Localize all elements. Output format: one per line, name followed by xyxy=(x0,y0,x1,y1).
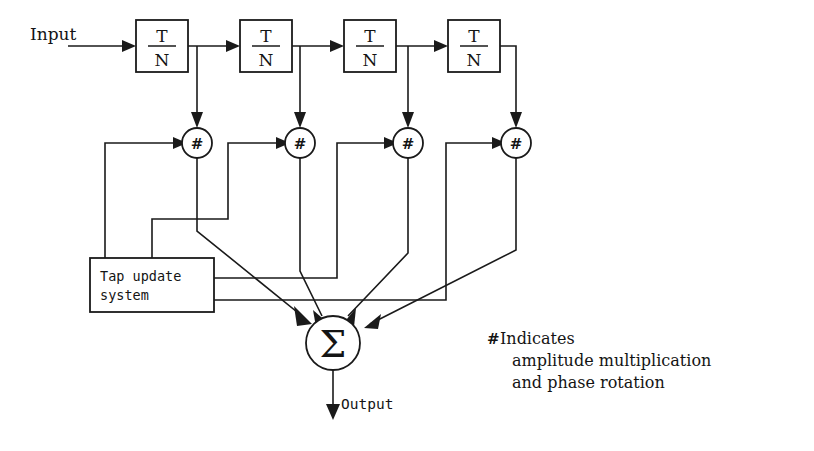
legend-line2: amplitude multiplication xyxy=(512,351,711,370)
tap-update-system-line1: Tap update xyxy=(100,268,181,284)
sum-wire-2-line xyxy=(300,158,322,316)
sum-wire-4 xyxy=(364,158,516,329)
sum-wire-3-line xyxy=(348,158,408,316)
control-wire-2-line xyxy=(152,143,276,258)
sum-wire-3 xyxy=(342,158,408,327)
multiplier-4-symbol: # xyxy=(510,135,523,153)
tap-update-system-box: Tap update system xyxy=(90,258,214,312)
delay-box-3: T N xyxy=(344,20,396,72)
chain-arrowhead-1 xyxy=(226,40,240,52)
multiplier-2-symbol: # xyxy=(294,135,307,153)
control-wire-1-line xyxy=(105,143,173,258)
delay-box-3-numerator: T xyxy=(364,26,376,46)
input-wire-group xyxy=(68,40,136,52)
control-wire-4-line xyxy=(214,143,492,300)
diagram-canvas: T N T N T N T N xyxy=(0,0,814,451)
multiplier-1: # xyxy=(182,128,212,158)
delay-box-1: T N xyxy=(136,20,188,72)
input-label: Input xyxy=(30,24,76,44)
output-label: Output xyxy=(341,396,393,412)
chain-arrowhead-2 xyxy=(330,40,344,52)
tap-drop-1 xyxy=(191,46,203,128)
sum-wire-4-line xyxy=(370,158,516,324)
delay-box-1-numerator: T xyxy=(156,26,168,46)
control-wire-1 xyxy=(105,137,187,258)
tap-update-system-line2: system xyxy=(100,287,149,303)
legend-line3: and phase rotation xyxy=(512,373,665,392)
tap-drop-2-arrowhead xyxy=(294,112,306,128)
multiplier-3: # xyxy=(393,128,423,158)
legend-hash-icon: # xyxy=(487,330,500,348)
multiplier-2: # xyxy=(285,128,315,158)
delay-box-3-denominator: N xyxy=(363,50,378,70)
multiplier-4: # xyxy=(501,128,531,158)
input-arrowhead xyxy=(122,40,136,52)
chain-arrowhead-3 xyxy=(434,40,448,52)
delay-box-4-denominator: N xyxy=(467,50,482,70)
control-wire-3-line xyxy=(214,143,384,278)
summer-symbol: Σ xyxy=(320,322,347,366)
delay-box-1-denominator: N xyxy=(155,50,170,70)
control-wire-4 xyxy=(214,137,506,300)
output-arrowhead xyxy=(326,404,340,420)
multiplier-1-symbol: # xyxy=(191,135,204,153)
control-wire-2 xyxy=(152,137,290,258)
delay-box-2-denominator: N xyxy=(259,50,274,70)
sum-wire-4-arrowhead xyxy=(364,314,381,329)
multiplier-3-symbol: # xyxy=(402,135,415,153)
equalizer-diagram: T N T N T N T N xyxy=(0,0,814,451)
output-wire-group xyxy=(326,370,340,420)
sum-wire-1-arrowhead xyxy=(294,306,312,326)
delay-box-4: T N xyxy=(448,20,500,72)
tap-drop-2 xyxy=(294,46,306,128)
tap-drop-3 xyxy=(402,46,414,128)
tap-drop-4-arrowhead xyxy=(510,112,522,128)
control-wire-3 xyxy=(214,137,398,278)
tap-drop-1-arrowhead xyxy=(191,112,203,128)
summer-node: Σ xyxy=(306,316,360,370)
sum-wire-2 xyxy=(300,158,329,327)
delay-box-2: T N xyxy=(240,20,292,72)
delay-box-2-numerator: T xyxy=(260,26,272,46)
delay-box-4-numerator: T xyxy=(468,26,480,46)
tap-drop-3-arrowhead xyxy=(402,112,414,128)
tap-update-system-rect xyxy=(90,258,214,312)
legend-group: # Indicates amplitude multiplication and… xyxy=(487,329,711,392)
legend-line1: Indicates xyxy=(500,329,575,348)
